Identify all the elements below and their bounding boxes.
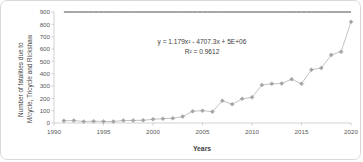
data-point-marker — [151, 117, 155, 121]
y-tick-label: 100 — [40, 107, 51, 114]
y-tick-label: 400 — [40, 70, 51, 77]
data-point-marker — [280, 82, 284, 86]
r-squared-label: R² = 0.9612 — [185, 48, 220, 55]
data-point-marker — [230, 102, 234, 106]
y-tick-label: 800 — [40, 21, 51, 28]
x-tick-label: 2015 — [295, 128, 309, 135]
data-point-marker — [240, 97, 244, 101]
data-series-line — [64, 22, 351, 122]
y-tick-label: 500 — [40, 58, 51, 65]
y-axis-title-line2: M/cycle, Tricycle and Rickshaw — [26, 34, 34, 123]
chart-frame: 0100200300400500600700800900 19901995200… — [0, 0, 361, 160]
data-point-marker — [339, 50, 343, 54]
y-tick-label: 600 — [40, 45, 51, 52]
y-axis-ticks: 0100200300400500600700800900 — [40, 8, 54, 126]
x-tick-label: 1990 — [47, 128, 61, 135]
y-tick-label: 0 — [47, 119, 51, 126]
data-point-marker — [171, 116, 175, 120]
data-point-marker — [270, 82, 274, 86]
x-tick-label: 2000 — [146, 128, 160, 135]
y-tick-label: 200 — [40, 95, 51, 102]
x-tick-label: 1995 — [97, 128, 111, 135]
data-point-marker — [191, 109, 195, 113]
y-tick-label: 900 — [40, 8, 51, 15]
data-point-marker — [349, 20, 353, 24]
data-point-marker — [201, 109, 205, 113]
y-tick-label: 700 — [40, 33, 51, 40]
data-point-marker — [72, 119, 76, 123]
x-axis-title: Years — [193, 145, 211, 152]
data-point-marker — [141, 118, 145, 122]
x-axis-ticks: 1990199520002005201020152020 — [47, 123, 358, 135]
data-point-marker — [121, 119, 125, 123]
x-tick-label: 2010 — [245, 128, 259, 135]
data-point-marker — [181, 115, 185, 119]
y-tick-label: 300 — [40, 82, 51, 89]
data-point-marker — [131, 118, 135, 122]
x-tick-label: 2020 — [344, 128, 358, 135]
data-point-markers — [62, 20, 353, 124]
data-point-marker — [62, 119, 66, 123]
y-axis-title-line1: Number of fatalities due to — [17, 42, 24, 117]
chart-plot-area: 0100200300400500600700800900 19901995200… — [1, 1, 362, 161]
x-tick-label: 2005 — [196, 128, 210, 135]
data-point-marker — [161, 117, 165, 121]
trendline-equation-label: y = 1.179x² - 4707.3x + 5E+06 — [158, 38, 247, 46]
data-point-marker — [290, 77, 294, 81]
